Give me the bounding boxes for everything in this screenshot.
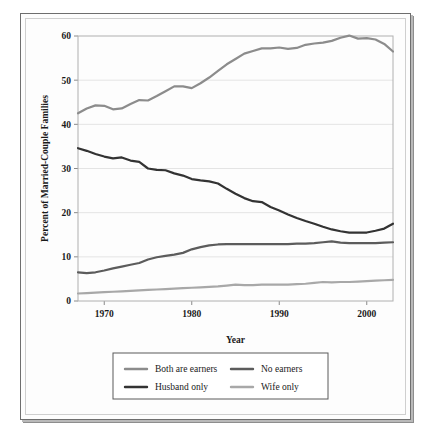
plot-wrapper: 0102030405060 1970198019902000 Percent o…	[21, 14, 412, 421]
y-tick-label: 60	[62, 31, 72, 41]
y-tick-label: 0	[66, 296, 71, 306]
series-line-both-are-earners	[78, 36, 393, 114]
series-line-husband-only	[78, 148, 393, 232]
y-tick-label: 40	[62, 120, 72, 130]
axis-tickmarks	[74, 36, 367, 305]
y-axis-title: Percent of Married-Couple Families	[40, 95, 50, 242]
line-chart: 0102030405060 1970198019902000 Percent o…	[21, 14, 412, 421]
chart-figure: 0102030405060 1970198019902000 Percent o…	[20, 13, 411, 420]
legend-label: Husband only	[155, 382, 208, 392]
legend-label: Both are earners	[155, 364, 218, 374]
x-tick-label: 1980	[182, 309, 201, 319]
x-tick-label: 2000	[357, 309, 376, 319]
x-tick-label: 1990	[270, 309, 289, 319]
y-tick-label: 50	[62, 76, 72, 86]
legend-label: Wife only	[261, 382, 299, 392]
x-tick-label: 1970	[95, 309, 114, 319]
y-axis-tick-labels: 0102030405060	[62, 31, 72, 306]
series-line-wife-only	[78, 280, 393, 294]
x-axis-title: Year	[226, 335, 246, 345]
y-tick-label: 10	[62, 252, 72, 262]
x-axis-tick-labels: 1970198019902000	[95, 309, 377, 319]
chart-legend: Both are earnersNo earnersHusband onlyWi…	[113, 353, 328, 399]
series-lines	[78, 36, 393, 294]
y-tick-label: 30	[62, 164, 72, 174]
legend-label: No earners	[261, 364, 303, 374]
y-tick-label: 20	[62, 208, 72, 218]
